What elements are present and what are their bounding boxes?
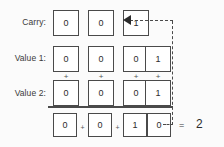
value2-bit-3: 1 [145, 80, 171, 106]
result-plus-0: + [79, 124, 86, 131]
value2-bit-0: 0 [53, 80, 79, 106]
carry-feedback-vertical-segment [172, 21, 173, 125]
sum-divider-rule [48, 106, 173, 108]
binary-addition-diagram: Carry: Value 1: Value 2: 0 0 1 0 0 0 1 +… [0, 0, 224, 147]
result-plus-1: + [114, 124, 121, 131]
value1-bit-3: 1 [145, 46, 171, 72]
result-bit-0: 0 [53, 113, 77, 137]
carry-row-label: Carry: [0, 17, 46, 27]
value1-bit-0: 0 [53, 46, 79, 72]
result-bit-2: 1 [123, 113, 147, 137]
equals-sign: = [179, 120, 184, 130]
carry-bit-0: 0 [53, 10, 79, 36]
total-value: 2 [196, 117, 203, 131]
carry-feedback-top-segment [130, 20, 173, 21]
left-arrow-icon [123, 15, 131, 25]
value1-bit-1: 0 [88, 46, 114, 72]
value2-row-label: Value 2: [0, 88, 46, 98]
result-bit-1: 0 [88, 113, 112, 137]
value2-bit-1: 0 [88, 80, 114, 106]
value1-row-label: Value 1: [0, 53, 46, 63]
result-bit-3: 0 [147, 113, 171, 137]
carry-bit-1: 0 [88, 10, 114, 36]
